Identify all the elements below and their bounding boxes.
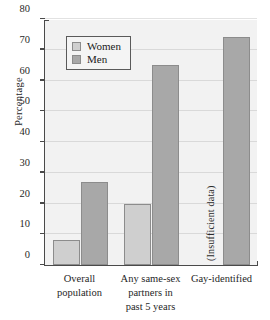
legend-label-men: Men [87,54,107,65]
gridline [45,18,257,19]
y-tick-label: 50 [20,95,31,106]
legend-label-women: Women [87,41,121,52]
bar-women-any-same-sex-partners-in-past-5-years [124,204,151,266]
y-tick-label: 60 [20,64,31,75]
y-tick-label: 30 [20,156,31,167]
legend-item-women: Women [72,41,121,52]
chart-legend: Women Men [66,36,131,70]
bar-group: (Insufficient data) [187,20,258,265]
x-axis-labels: OverallpopulationAny same-sexpartners in… [44,272,257,318]
y-tick-label: 80 [20,3,31,14]
bar-men-overall-population [81,182,108,265]
insufficient-data-annotation: (Insufficient data) [205,185,216,261]
y-tick-label: 10 [20,218,31,229]
bar-chart-figure: Percentage 01020304050607080 (Insufficie… [0,0,270,320]
bar-men-any-same-sex-partners-in-past-5-years [152,65,179,265]
legend-item-men: Men [72,54,121,65]
bar-men-gay-identified [223,37,250,265]
y-tick-mark [40,18,45,19]
x-tick-label: Gay-identified [178,272,265,286]
y-tick-label: 20 [20,187,31,198]
men-swatch-icon [72,55,81,64]
y-tick-label: 0 [25,249,30,260]
y-tick-label: 40 [20,126,31,137]
bar-women-overall-population [53,240,80,265]
women-swatch-icon [72,42,81,51]
y-tick-label: 70 [20,33,31,44]
